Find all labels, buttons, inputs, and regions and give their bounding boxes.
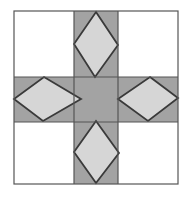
figure-canvas xyxy=(0,0,191,197)
block-group xyxy=(14,11,178,184)
quilt-block-figure xyxy=(0,0,191,197)
